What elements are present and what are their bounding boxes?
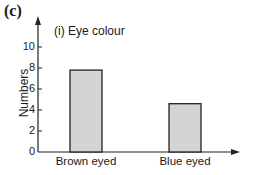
x-category-label: Brown eyed	[46, 155, 126, 167]
y-tick-label: 8	[21, 61, 35, 73]
y-axis-arrow-icon	[35, 16, 41, 25]
bar-blue-eyed	[169, 104, 201, 152]
bars	[70, 70, 201, 152]
x-category-label: Blue eyed	[145, 155, 225, 167]
plot-area	[0, 0, 254, 175]
x-axis-arrow-icon	[231, 149, 240, 155]
bar-brown-eyed	[70, 70, 102, 152]
y-tick-label: 0	[21, 145, 35, 157]
y-tick-label: 10	[21, 40, 35, 52]
y-tick-label: 6	[21, 82, 35, 94]
y-tick-label: 4	[21, 103, 35, 115]
y-tick-label: 2	[21, 124, 35, 136]
